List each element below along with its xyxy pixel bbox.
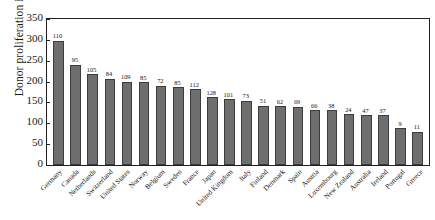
bar-slot: 66 <box>306 19 323 165</box>
bar-slot: 62 <box>272 19 289 165</box>
bar-value-label: 9 <box>398 121 401 127</box>
bar <box>224 99 235 165</box>
y-axis-tick-label: 150 <box>27 94 44 106</box>
bar-slot: 84 <box>101 19 118 165</box>
x-axis-label-slot: United Kingdom <box>221 168 238 220</box>
x-axis-label-slot: Denmark <box>272 168 289 220</box>
bar-value-label: 38 <box>328 103 334 109</box>
bar-series: 1109510584109857285112128101735162696638… <box>47 19 429 165</box>
bar-slot: 109 <box>118 19 135 165</box>
x-axis-label-slot: United States <box>118 168 135 220</box>
x-axis-label-slot: Australia <box>358 168 375 220</box>
bar <box>361 115 372 165</box>
y-axis-tick-label: 350 <box>27 11 44 23</box>
bar-slot: 11 <box>409 19 426 165</box>
x-axis-category-labels: GermanyCanadaNetherlandsSwitzerlandUnite… <box>46 168 430 220</box>
bar-slot: 24 <box>341 19 358 165</box>
bar-value-label: 95 <box>72 57 78 63</box>
bar <box>310 110 321 165</box>
bar-value-label: 24 <box>345 107 351 113</box>
y-axis-tick-label: 100 <box>27 115 44 127</box>
bar-slot: 51 <box>255 19 272 165</box>
bar-value-label: 51 <box>260 98 266 104</box>
x-axis-label-slot: Spain <box>290 168 307 220</box>
bar-slot: 112 <box>187 19 204 165</box>
chart-title-cropped <box>0 0 435 1</box>
bar <box>87 74 98 165</box>
bar-value-label: 105 <box>87 67 97 73</box>
y-axis-title: Donor proliferation index <box>13 0 25 111</box>
bar <box>105 79 116 165</box>
bar-value-label: 101 <box>224 92 234 98</box>
bar-slot: 37 <box>375 19 392 165</box>
x-axis-label-slot: Germany <box>49 168 66 220</box>
bar <box>207 97 218 165</box>
bar-slot: 110 <box>50 19 67 165</box>
x-axis-label-slot: Greece <box>410 168 427 220</box>
y-axis-tick-label: 250 <box>27 53 44 65</box>
y-axis-tick-label: 200 <box>27 74 44 86</box>
bar <box>412 132 423 165</box>
x-axis-label-slot: Finland <box>255 168 272 220</box>
bar-value-label: 112 <box>189 82 198 88</box>
bar-slot: 128 <box>204 19 221 165</box>
bar-value-label: 37 <box>379 108 385 114</box>
x-axis-label-slot: Portugal <box>393 168 410 220</box>
bar-slot: 101 <box>221 19 238 165</box>
bar-slot: 47 <box>358 19 375 165</box>
bar-value-label: 85 <box>174 80 180 86</box>
bar-value-label: 109 <box>121 74 131 80</box>
bar <box>241 101 252 165</box>
bar-slot: 85 <box>135 19 152 165</box>
x-axis-label-slot: Norway <box>135 168 152 220</box>
x-axis-label-slot: Belgium <box>152 168 169 220</box>
x-axis-label-slot: Italy <box>238 168 255 220</box>
bar-value-label: 62 <box>277 99 283 105</box>
bar-value-label: 47 <box>362 108 368 114</box>
y-axis-tick-mark <box>47 165 50 166</box>
bar <box>156 86 167 165</box>
y-axis-tick-label: 0 <box>38 157 44 169</box>
bar-value-label: 69 <box>294 99 300 105</box>
x-axis-label-slot: Sweden <box>169 168 186 220</box>
bar <box>173 87 184 165</box>
bar <box>258 106 269 165</box>
y-axis-tick-label: 50 <box>32 136 43 148</box>
bar <box>275 106 286 165</box>
chart-figure: Donor proliferation index 05010015020025… <box>0 0 435 220</box>
bar <box>327 110 338 165</box>
x-axis-label-slot: Ireland <box>376 168 393 220</box>
bar <box>139 82 150 165</box>
bar-value-label: 128 <box>206 90 216 96</box>
bar-slot: 38 <box>324 19 341 165</box>
y-axis-tick-label: 300 <box>27 32 44 44</box>
bar-slot: 105 <box>84 19 101 165</box>
bar-value-label: 73 <box>243 93 249 99</box>
bar-value-label: 85 <box>140 75 146 81</box>
bar-slot: 73 <box>238 19 255 165</box>
bar-value-label: 84 <box>106 71 112 77</box>
bar <box>378 115 389 165</box>
bar <box>70 65 81 165</box>
bar-slot: 69 <box>289 19 306 165</box>
bar-value-label: 72 <box>157 78 163 84</box>
x-axis-category-label: Germany <box>39 168 64 193</box>
bar <box>395 128 406 165</box>
bar <box>122 82 133 165</box>
bar-slot: 85 <box>170 19 187 165</box>
bar-slot: 95 <box>67 19 84 165</box>
bar-value-label: 110 <box>53 33 62 39</box>
bar-slot: 72 <box>153 19 170 165</box>
bar <box>344 114 355 165</box>
bar-slot: 9 <box>392 19 409 165</box>
bar <box>293 107 304 165</box>
bar <box>190 89 201 165</box>
bar-value-label: 11 <box>414 124 420 130</box>
x-axis-label-slot: New Zealand <box>341 168 358 220</box>
plot-area: 050100150200250300350 110951058410985728… <box>46 18 430 166</box>
bar-value-label: 66 <box>311 103 317 109</box>
bar <box>53 41 64 165</box>
